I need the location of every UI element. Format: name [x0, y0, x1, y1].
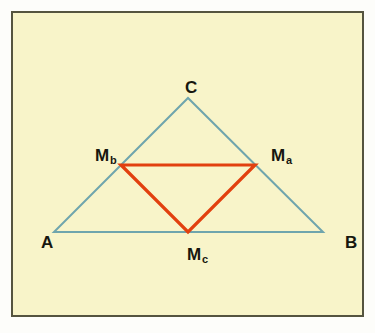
caption-remnant — [14, 321, 354, 333]
figure-page: C Mb Ma A B Mc — [0, 0, 375, 333]
label-vertex-c: C — [185, 79, 197, 96]
triangle-diagram-canvas — [13, 13, 362, 315]
label-midpoint-mb: Mb — [95, 147, 116, 164]
label-midpoint-ma: Ma — [271, 147, 292, 164]
label-vertex-b: B — [345, 234, 357, 251]
medial-triangle-ma-mb-mc — [121, 165, 255, 232]
geometry-figure-frame: C Mb Ma A B Mc — [11, 11, 364, 317]
label-vertex-a: A — [41, 234, 53, 251]
label-midpoint-mc: Mc — [187, 246, 208, 263]
